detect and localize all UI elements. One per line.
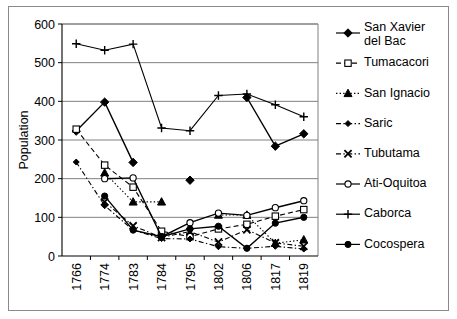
x-tick-label: 1806 [240,263,254,291]
marker-filled-circle [215,223,221,229]
x-tick-label: 1795 [184,263,198,291]
marker-filled-triangle [101,169,109,176]
y-tick-label: 500 [34,56,55,70]
series-line [76,44,304,131]
series-group [72,40,308,253]
marker-open-circle [130,175,136,181]
series-line [76,102,133,162]
legend-item-tubutama[interactable]: Tubutama [336,146,420,160]
y-tick-label: 200 [34,172,55,186]
y-tick-label: 300 [34,134,55,148]
marker-open-square [301,206,307,212]
marker-open-square [101,162,107,168]
marker-plus [72,40,80,48]
marker-filled-circle [102,193,108,199]
legend-item-ati-oquitoa[interactable]: Ati-Oquitoa [336,176,427,190]
marker-open-circle [102,176,108,182]
marker-open-circle [301,198,307,204]
legend-label: Tumacacori [364,55,429,69]
x-tick-label: 1784 [155,263,169,291]
y-axis-ticks: 0100200300400500600 [34,18,62,264]
legend-label: San Xavierdel Bac [364,20,425,48]
legend-label: San Ignacio [364,86,430,100]
y-axis-title-text: Population [17,110,31,169]
legend-label: Cocospera [364,237,424,251]
marker-open-circle [187,220,193,226]
marker-filled-diamond [344,29,352,37]
y-tick-label: 600 [34,18,55,32]
chart-screenshot: 0100200300400500600Population17661774178… [0,0,457,319]
marker-open-square [272,213,278,219]
x-tick-label: 1802 [212,263,226,291]
marker-filled-circle [158,234,164,240]
legend-item-tumacacori[interactable]: Tumacacori [336,55,429,69]
marker-filled-diamond [271,142,279,150]
y-tick-label: 100 [34,211,55,225]
marker-filled-circle [130,227,136,233]
marker-filled-circle [244,245,250,251]
legend-item-saric[interactable]: Saric [336,116,392,130]
x-tick-label: 1783 [127,263,141,291]
legend-label: Caborca [364,206,411,220]
marker-open-square [130,184,136,190]
legend: San Xavierdel BacTumacacoriSan IgnacioSa… [336,20,430,250]
series-saric [73,159,307,252]
legend-item-caborca[interactable]: Caborca [336,206,411,220]
marker-plus [100,46,108,54]
legend-item-san-ignacio[interactable]: San Ignacio [336,86,430,100]
marker-filled-circle [272,220,278,226]
marker-open-circle [272,205,278,211]
marker-open-circle [244,212,250,218]
marker-plus [129,40,137,48]
marker-filled-diamond [129,158,137,166]
marker-filled-diamond-small [73,159,79,165]
marker-filled-circle [301,214,307,220]
legend-item-san-xavier-del-bac[interactable]: San Xavierdel Bac [336,20,425,48]
marker-open-circle [345,181,351,187]
marker-filled-triangle [300,236,308,243]
marker-filled-diamond [300,130,308,138]
legend-label: Tubutama [364,146,420,160]
series-caborca [72,40,308,135]
marker-open-circle [215,210,221,216]
x-tick-label: 1817 [269,263,283,291]
marker-filled-diamond-small [345,121,351,127]
population-line-chart: 0100200300400500600Population17661774178… [0,0,457,319]
y-tick-label: 400 [34,95,55,109]
x-tick-label: 1766 [70,263,84,291]
legend-label: Ati-Oquitoa [364,176,427,190]
marker-plus [271,101,279,109]
marker-filled-circle [187,226,193,232]
marker-plus [300,113,308,121]
x-tick-label: 1819 [297,263,311,291]
marker-open-square [345,60,351,66]
legend-item-cocospera[interactable]: Cocospera [336,237,424,251]
legend-label: Saric [364,116,392,130]
marker-plus [157,124,165,132]
marker-filled-diamond [186,176,194,184]
x-tick-label: 1774 [98,263,112,291]
y-axis-title: Population [17,110,31,169]
marker-plus [344,210,352,218]
marker-filled-circle [345,241,351,247]
marker-open-square [73,126,79,132]
y-tick-label: 0 [48,250,55,264]
series-san-xavier-del-bac [72,93,308,184]
marker-filled-triangle [158,198,166,205]
x-axis-ticks: 176617741783178417951802180618171819 [70,256,312,291]
gridlines [62,24,318,217]
